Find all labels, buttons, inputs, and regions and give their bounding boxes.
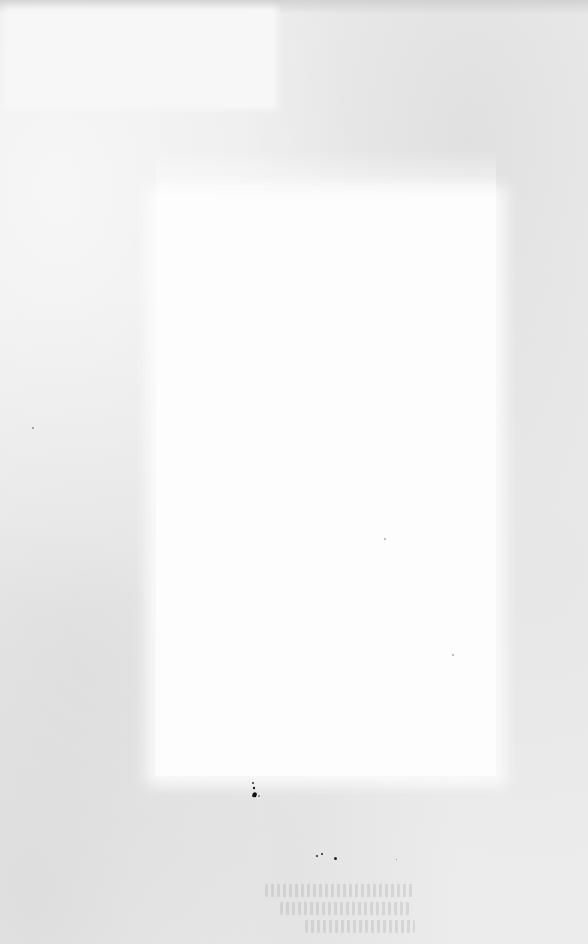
faint-text-line (305, 920, 415, 933)
scanned-page (0, 0, 588, 944)
ink-speck (334, 857, 337, 860)
central-blank-area (156, 196, 496, 776)
ink-speck (321, 853, 323, 855)
ink-speck (316, 855, 318, 857)
ink-speck (32, 427, 34, 429)
top-left-blank-patch (8, 10, 274, 106)
faint-text-line (265, 884, 415, 897)
ink-speck (396, 859, 397, 860)
panel-top-fade (156, 150, 496, 196)
faint-text-line (280, 902, 410, 915)
ink-speck (384, 538, 386, 540)
ink-speck (452, 654, 454, 656)
illegible-faint-text (245, 884, 425, 940)
ink-smudge-icon (250, 781, 264, 803)
